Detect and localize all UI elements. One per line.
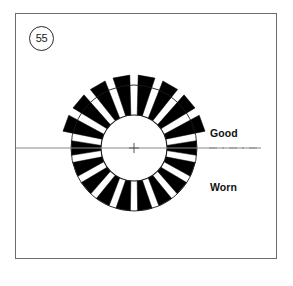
label-good-zone: Good (210, 127, 238, 139)
label-worn-zone: Worn (210, 181, 237, 193)
sprocket-wear-diagram (16, 14, 278, 260)
sprocket-tooth-worn (137, 180, 152, 211)
sprocket-tooth-worn (116, 180, 131, 211)
figure-panel: 55 Good Worn (15, 13, 277, 259)
